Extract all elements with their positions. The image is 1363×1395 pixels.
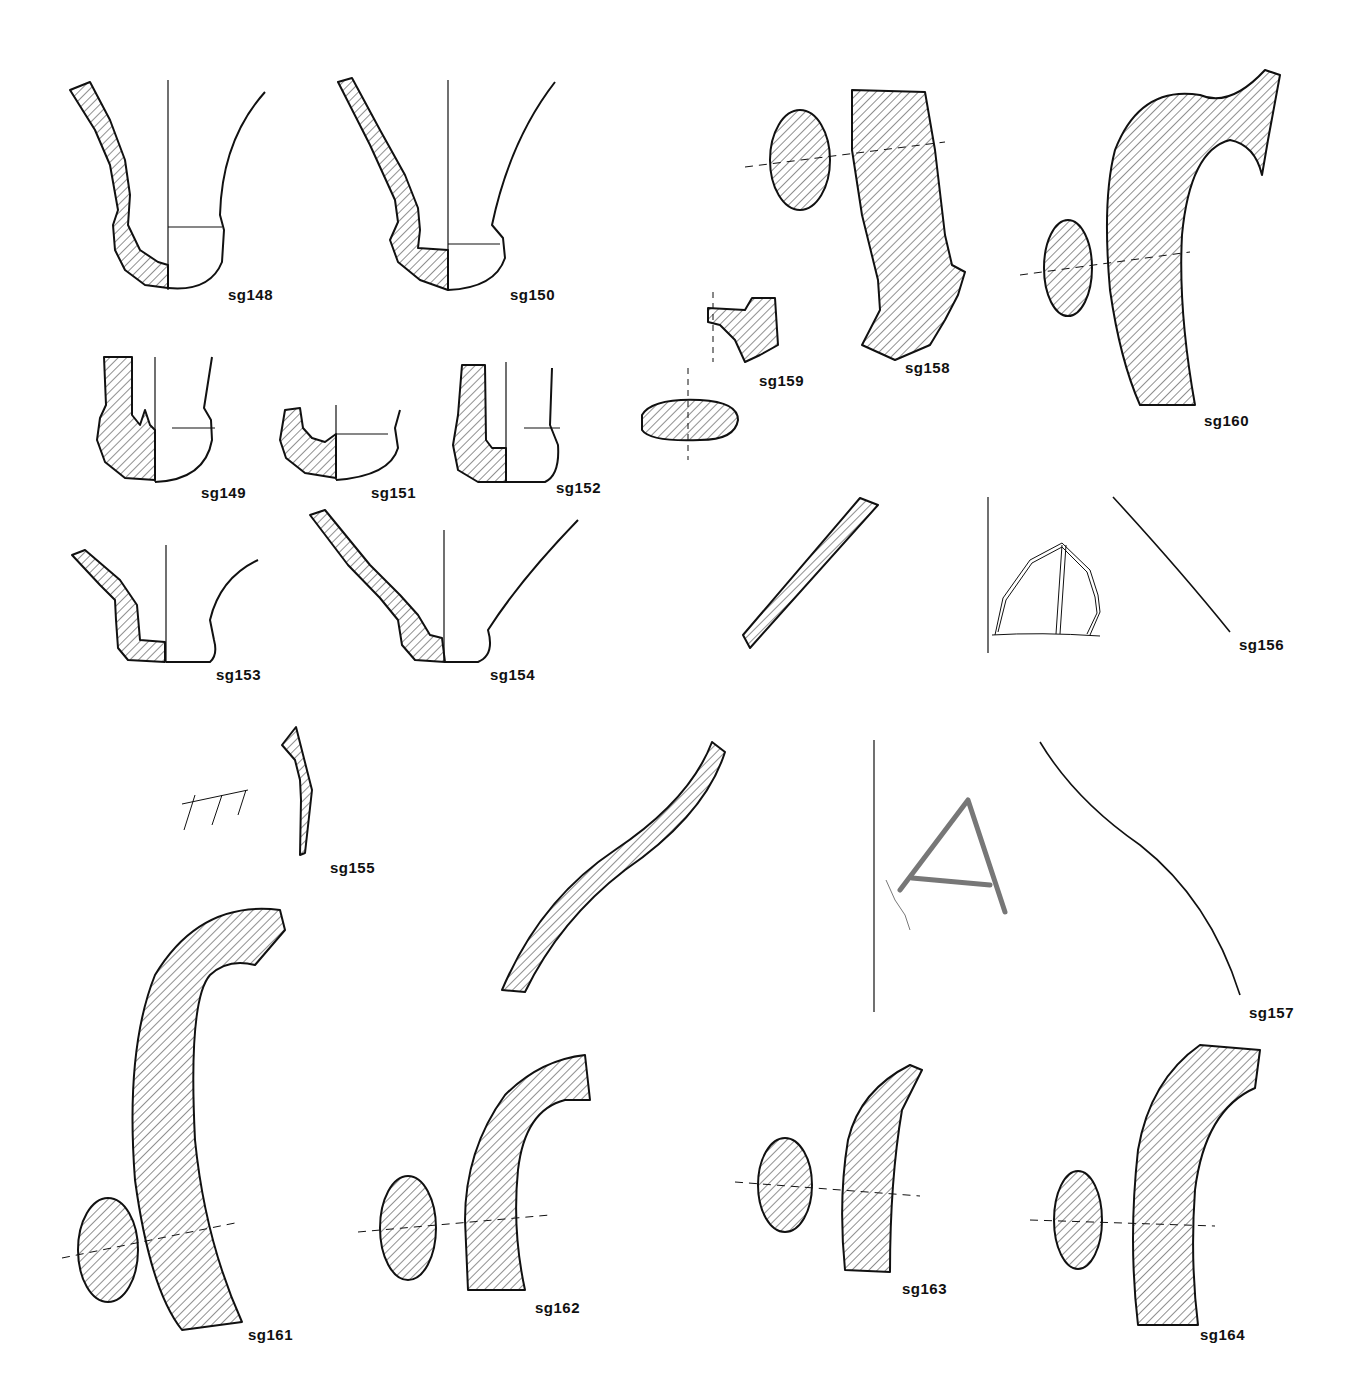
figure-sg152 xyxy=(453,362,560,482)
figure-sg156 xyxy=(743,497,1230,653)
figure-sg153 xyxy=(72,545,258,662)
label-sg164: sg164 xyxy=(1200,1326,1245,1343)
label-sg158: sg158 xyxy=(905,359,950,376)
incised-letter-A xyxy=(900,800,1005,912)
label-sg163: sg163 xyxy=(902,1280,947,1297)
figure-sg164 xyxy=(1030,1045,1260,1325)
graffito-strokes xyxy=(182,790,248,830)
label-sg153: sg153 xyxy=(216,666,261,683)
figure-sg149 xyxy=(97,357,215,482)
figure-sg151 xyxy=(280,405,400,480)
label-sg156: sg156 xyxy=(1239,636,1284,653)
drawing-plate xyxy=(0,0,1363,1395)
label-sg148: sg148 xyxy=(228,286,273,303)
figure-sg161 xyxy=(62,909,285,1330)
label-sg150: sg150 xyxy=(510,286,555,303)
label-sg160: sg160 xyxy=(1204,412,1249,429)
figure-sg158 xyxy=(745,90,965,360)
figure-sg148 xyxy=(70,80,265,290)
figure-sg159 xyxy=(642,292,778,460)
label-sg154: sg154 xyxy=(490,666,535,683)
label-sg162: sg162 xyxy=(535,1299,580,1316)
label-sg157: sg157 xyxy=(1249,1004,1294,1021)
figure-sg160 xyxy=(1020,70,1280,405)
label-sg149: sg149 xyxy=(201,484,246,501)
figure-sg162 xyxy=(358,1055,590,1290)
figure-sg155 xyxy=(182,727,312,855)
label-sg159: sg159 xyxy=(759,372,804,389)
label-sg161: sg161 xyxy=(248,1326,293,1343)
label-sg152: sg152 xyxy=(556,479,601,496)
figure-sg154 xyxy=(310,510,578,662)
label-sg151: sg151 xyxy=(371,484,416,501)
figure-sg157 xyxy=(502,740,1240,1012)
figure-sg163 xyxy=(735,1065,922,1272)
label-sg155: sg155 xyxy=(330,859,375,876)
figure-sg150 xyxy=(338,78,555,290)
